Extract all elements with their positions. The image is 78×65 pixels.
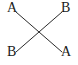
crossing-lines-diagram: A B B A [0, 0, 78, 65]
label-top-right: B [61, 1, 70, 15]
label-top-left: A [7, 1, 17, 15]
label-bottom-left: B [7, 45, 16, 59]
label-bottom-right: A [61, 45, 71, 59]
